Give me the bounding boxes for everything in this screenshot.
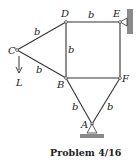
- node-label-f: F: [121, 73, 130, 84]
- member-label-ba: b: [72, 101, 78, 112]
- figure-caption: Problem 4/16: [50, 147, 122, 158]
- ground-support: [80, 134, 104, 138]
- truss-figure: D E C B F A L b b b b b b Problem 4/16: [0, 0, 138, 160]
- wall-support: [127, 9, 133, 34]
- pin-support-a: [87, 124, 97, 133]
- truss-diagram: D E C B F A L b b b b b b Problem 4/16: [0, 0, 138, 160]
- node-label-c: C: [8, 45, 16, 56]
- node-label-b: B: [56, 79, 64, 90]
- member-label-cb: b: [36, 64, 42, 75]
- member-label-de: b: [88, 9, 94, 20]
- member-label-db: b: [68, 44, 74, 55]
- truss-members: [17, 22, 120, 124]
- load-arrow-icon: [16, 56, 22, 73]
- member-label-fa: b: [107, 101, 113, 112]
- joints: [16, 21, 122, 126]
- member-label-cd: b: [34, 26, 40, 37]
- load-label: L: [15, 77, 23, 88]
- node-label-d: D: [60, 8, 69, 19]
- node-label-a: A: [80, 119, 88, 130]
- node-label-e: E: [112, 8, 121, 19]
